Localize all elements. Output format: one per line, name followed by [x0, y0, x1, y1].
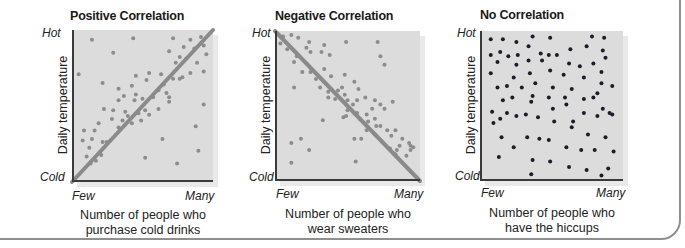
scatter-plot [72, 30, 213, 182]
data-point [174, 61, 178, 65]
data-point [547, 95, 551, 99]
data-point [591, 61, 595, 65]
data-point [188, 71, 192, 75]
data-point [564, 103, 568, 107]
data-point [289, 161, 293, 165]
data-point [87, 146, 91, 150]
data-point [601, 49, 605, 53]
data-point [160, 137, 164, 141]
data-point [531, 94, 535, 98]
data-point [551, 86, 555, 90]
data-point [143, 108, 147, 112]
data-point [548, 159, 552, 163]
data-point [578, 64, 582, 68]
data-point [497, 155, 501, 159]
x-axis-title-line-1: Number of people who [258, 207, 438, 222]
y-axis-line [275, 31, 277, 181]
data-point [101, 81, 105, 85]
data-point [498, 50, 502, 54]
data-point [292, 86, 296, 90]
plot-area [480, 31, 623, 181]
data-point [382, 107, 386, 111]
data-point [491, 121, 495, 125]
data-point [355, 98, 359, 102]
x-tick-many: Many [185, 189, 214, 203]
data-point [278, 42, 282, 46]
data-point [604, 135, 608, 139]
y-tick-cold: Cold [40, 170, 65, 184]
data-point [514, 114, 518, 118]
data-point [531, 158, 535, 162]
data-point [506, 54, 510, 58]
data-point [354, 159, 358, 163]
data-point [147, 71, 151, 75]
data-point [602, 36, 606, 40]
data-point [199, 35, 203, 39]
y-tick-hot: Hot [42, 26, 61, 40]
data-point [562, 73, 566, 77]
data-point [139, 118, 143, 122]
data-point [606, 166, 610, 170]
data-point [93, 128, 97, 132]
data-point [378, 124, 382, 128]
data-point [202, 69, 206, 73]
data-point [582, 97, 586, 101]
data-point [356, 87, 360, 91]
data-point [195, 61, 199, 65]
data-point [520, 86, 524, 90]
x-tick-few: Few [276, 187, 299, 201]
data-point [133, 98, 137, 102]
data-point [551, 107, 555, 111]
trend-line [275, 31, 420, 181]
data-point [570, 125, 574, 129]
data-point [182, 45, 186, 49]
data-point [322, 43, 326, 47]
scatter-plot [480, 31, 623, 181]
data-point [90, 38, 94, 42]
data-point [81, 139, 85, 143]
data-point [599, 81, 603, 85]
data-point [536, 115, 540, 119]
data-point [570, 87, 574, 91]
data-point [344, 40, 348, 44]
data-point [167, 95, 171, 99]
data-point [529, 172, 533, 176]
data-point [501, 98, 505, 102]
data-point [159, 72, 163, 76]
data-point [111, 51, 115, 55]
data-point [167, 100, 171, 104]
data-point [292, 60, 296, 64]
data-point [130, 84, 134, 88]
y-axis-title: Daily temperature [259, 50, 273, 160]
data-point [567, 165, 571, 169]
data-point [571, 120, 575, 124]
data-point [489, 71, 493, 75]
data-point [404, 154, 408, 158]
data-point [343, 73, 347, 77]
data-point [539, 51, 543, 55]
data-point [525, 135, 529, 139]
data-point [352, 137, 356, 141]
data-point [300, 70, 304, 74]
data-point [548, 69, 552, 73]
data-point [489, 53, 493, 57]
data-point [501, 37, 505, 41]
trend-line [72, 30, 213, 182]
data-point [370, 107, 374, 111]
data-point [568, 47, 572, 51]
data-point [97, 121, 101, 125]
data-point [307, 148, 311, 152]
data-point [489, 37, 493, 41]
data-point [567, 61, 571, 65]
chart-title: Negative Correlation [275, 9, 393, 23]
x-tick-few: Few [72, 189, 95, 203]
data-point [585, 44, 589, 48]
x-axis-title: Number of people who wear sweaters [258, 207, 438, 237]
data-point [547, 53, 551, 57]
data-point [196, 149, 200, 153]
data-point [400, 137, 404, 141]
data-point [117, 87, 121, 91]
x-axis-line [480, 179, 623, 181]
data-point [329, 74, 333, 78]
x-tick-many: Many [596, 186, 625, 200]
